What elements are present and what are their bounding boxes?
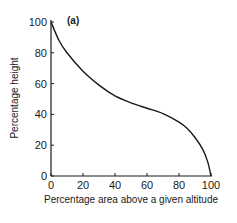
- x-tick-label: 80: [173, 179, 185, 191]
- data-line: [51, 22, 211, 176]
- x-tick-label: 60: [141, 179, 153, 191]
- y-tick-label: 20: [35, 139, 47, 151]
- y-tick-label: 100: [29, 16, 47, 28]
- y-tick-label: 80: [35, 47, 47, 59]
- panel-label: (a): [67, 15, 79, 26]
- x-tick-label: 100: [202, 179, 220, 191]
- y-tick-label: 0: [41, 170, 47, 182]
- x-tick-label: 0: [48, 179, 54, 191]
- y-tick-label: 40: [35, 108, 47, 120]
- x-tick-label: 40: [109, 179, 121, 191]
- y-ticks: 020406080100: [29, 16, 54, 182]
- y-axis-label: Percentage height: [9, 57, 20, 138]
- x-tick-label: 20: [77, 179, 89, 191]
- x-axis-label: Percentage area above a given altitude: [44, 194, 218, 205]
- chart: 020406080100 020406080100 (a) Percentage…: [0, 0, 237, 223]
- y-tick-label: 60: [35, 78, 47, 90]
